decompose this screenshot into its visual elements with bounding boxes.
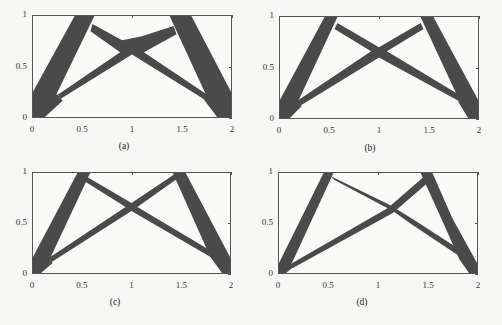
topology-structure [279,173,477,273]
x-tick-mark [429,16,430,19]
x-tick-label: 1.5 [419,125,439,135]
subfigure-caption: (d) [347,297,377,307]
y-tick-mark [229,118,232,119]
y-tick-mark [475,274,478,275]
plot-area [279,16,479,119]
x-tick-label: 0.5 [72,124,92,134]
x-tick-label: 1.5 [418,280,438,290]
x-tick-mark [428,172,429,175]
x-tick-mark [232,15,233,18]
x-tick-mark [132,172,133,175]
topology-structure [33,16,231,117]
y-tick-label: 1 [7,9,27,19]
x-tick-label: 1 [122,280,142,290]
y-tick-label: 1 [254,10,274,20]
y-tick-mark [228,223,231,224]
material-region [458,98,478,118]
x-tick-mark [479,16,480,19]
y-tick-label: 0.5 [7,217,27,227]
x-tick-label: 2 [468,280,488,290]
plot-area [32,172,231,274]
y-tick-label: 0 [254,113,274,123]
x-tick-mark [32,15,33,18]
topology-structure [280,17,478,118]
material-region [203,92,231,117]
x-tick-label: 1 [369,125,389,135]
x-tick-mark [32,172,33,175]
x-tick-mark [328,172,329,175]
x-tick-label: 1 [368,280,388,290]
x-tick-mark [132,15,133,18]
y-tick-label: 1 [7,166,27,176]
x-tick-label: 2 [469,125,489,135]
x-tick-mark [82,15,83,18]
x-tick-mark [379,16,380,19]
plot-area [32,15,232,118]
x-tick-label: 2 [221,280,241,290]
topology-structure [33,173,230,273]
x-tick-label: 1.5 [171,280,191,290]
x-tick-mark [278,172,279,175]
subfigure-caption: (b) [355,143,385,153]
x-tick-label: 2 [222,124,242,134]
x-tick-mark [181,172,182,175]
x-tick-mark [329,16,330,19]
x-tick-label: 0.5 [319,125,339,135]
x-tick-label: 0.5 [72,280,92,290]
x-tick-mark [279,16,280,19]
x-tick-mark [478,172,479,175]
subfigure-caption: (a) [109,141,139,151]
plot-area [278,172,478,274]
material-region [421,173,477,273]
material-region [212,254,230,273]
x-tick-label: 0 [22,124,42,134]
y-tick-label: 0 [7,268,27,278]
x-tick-label: 0 [22,280,42,290]
x-tick-label: 1.5 [172,124,192,134]
x-tick-mark [231,172,232,175]
material-region [33,257,53,273]
y-tick-label: 1 [253,166,273,176]
y-tick-label: 0 [7,112,27,122]
y-tick-mark [476,68,479,69]
x-tick-label: 0 [268,280,288,290]
y-tick-mark [476,119,479,120]
subfigure-caption: (c) [100,297,130,307]
y-tick-label: 0.5 [254,62,274,72]
x-tick-mark [82,172,83,175]
material-region [33,92,63,117]
x-tick-label: 0.5 [318,280,338,290]
x-tick-mark [182,15,183,18]
y-tick-mark [229,67,232,68]
y-tick-label: 0.5 [253,217,273,227]
y-tick-label: 0 [253,268,273,278]
x-tick-label: 1 [122,124,142,134]
x-tick-label: 0 [269,125,289,135]
y-tick-label: 0.5 [7,61,27,71]
y-tick-mark [475,223,478,224]
x-tick-mark [378,172,379,175]
y-tick-mark [228,274,231,275]
